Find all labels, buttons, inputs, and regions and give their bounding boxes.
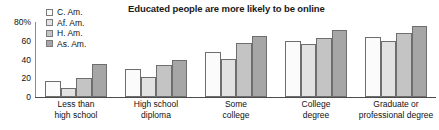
bar [236, 43, 252, 97]
legend-item[interactable]: C. Am. [46, 7, 106, 18]
bar [61, 88, 77, 97]
y-tick-label: 60 [22, 36, 31, 46]
y-tick-label: 0 [26, 92, 31, 102]
bar-group [116, 22, 196, 97]
x-category-label-line: professional degree [356, 110, 436, 121]
x-category-label: Collegedegree [276, 99, 356, 121]
bar [172, 60, 188, 98]
y-axis: 020406080% [0, 0, 34, 130]
bar [332, 30, 348, 98]
plot-area [36, 22, 436, 97]
x-category-label-line: High school [116, 99, 196, 110]
x-category-label-line: diploma [116, 110, 196, 121]
x-category-label: High schooldiploma [116, 99, 196, 121]
bar [156, 65, 172, 97]
bar [45, 81, 61, 97]
x-category-label-line: College [276, 99, 356, 110]
x-category-label: Somecollege [196, 99, 276, 121]
bar [316, 38, 332, 97]
bar-group [356, 22, 436, 97]
bar [125, 69, 141, 97]
bar [412, 26, 428, 97]
bar-chart: Educated people are more likely to be on… [0, 0, 439, 130]
bar [381, 41, 397, 97]
y-tick-label: 40 [22, 55, 31, 65]
bar [365, 37, 381, 97]
y-tick-label: 20 [22, 73, 31, 83]
x-category-label: Graduate orprofessional degree [356, 99, 436, 121]
x-category-label: Less thanhigh school [36, 99, 116, 121]
bar [221, 59, 237, 97]
legend-swatch-icon [46, 9, 53, 16]
x-axis-line [35, 97, 436, 98]
x-category-label-line: Some [196, 99, 276, 110]
chart-title: Educated people are more likely to be on… [128, 3, 325, 14]
bar [396, 33, 412, 97]
x-category-label-line: college [196, 110, 276, 121]
bar [92, 64, 108, 97]
bar-group [276, 22, 356, 97]
y-tick-label: 80% [14, 17, 31, 27]
x-category-label-line: degree [276, 110, 356, 121]
bar-group [196, 22, 276, 97]
legend-label: C. Am. [57, 7, 83, 17]
bar-group [36, 22, 116, 97]
bar [285, 41, 301, 97]
x-axis: Less thanhigh schoolHigh schooldiplomaSo… [36, 99, 436, 129]
bar [76, 78, 92, 97]
bar [205, 52, 221, 97]
x-category-label-line: high school [36, 110, 116, 121]
bar [141, 77, 157, 97]
x-category-label-line: Graduate or [356, 99, 436, 110]
x-category-label-line: Less than [36, 99, 116, 110]
bar [301, 44, 317, 97]
bar [252, 36, 268, 97]
